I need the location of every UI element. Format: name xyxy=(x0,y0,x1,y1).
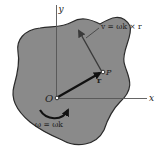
rigid-body-shape xyxy=(13,17,131,144)
y-axis-label: y xyxy=(58,4,65,14)
angular-velocity-label: ω = ωk xyxy=(35,120,63,129)
point-p xyxy=(101,70,105,74)
origin-label: O xyxy=(45,93,53,104)
rigid-body-diagram: y x O P r v = ωk × r ω = ωk xyxy=(0,0,162,152)
point-p-label: P xyxy=(105,68,112,77)
origin-point xyxy=(55,96,59,100)
x-axis-label: x xyxy=(149,93,154,103)
velocity-label: v = ωk × r xyxy=(100,22,142,31)
